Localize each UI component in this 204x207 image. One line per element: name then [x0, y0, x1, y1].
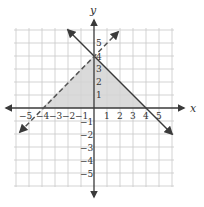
svg-text:−2: −2	[80, 130, 93, 140]
svg-text:−4: −4	[80, 156, 94, 166]
svg-text:−1: −1	[80, 117, 93, 127]
svg-text:3: 3	[96, 64, 102, 74]
svg-text:3: 3	[130, 111, 136, 121]
svg-text:−2: −2	[62, 111, 75, 121]
y-axis-label: y	[89, 4, 97, 17]
svg-text:−5: −5	[80, 169, 94, 179]
svg-text:1: 1	[96, 90, 102, 100]
svg-text:−4: −4	[36, 111, 50, 121]
svg-text:1: 1	[104, 111, 110, 121]
coordinate-plane: x y −5 −4 −3 −2 −1 1 2 3 4 5 5 4 3 2 1 −…	[0, 0, 204, 207]
svg-text:−5: −5	[19, 111, 33, 121]
svg-text:−3: −3	[80, 143, 94, 153]
svg-text:4: 4	[143, 111, 149, 121]
svg-text:5: 5	[96, 38, 102, 48]
svg-text:2: 2	[96, 77, 102, 87]
svg-text:−3: −3	[49, 111, 63, 121]
x-axis-label: x	[190, 102, 197, 115]
svg-text:4: 4	[96, 52, 102, 62]
svg-text:2: 2	[117, 111, 123, 121]
svg-text:5: 5	[156, 111, 162, 121]
